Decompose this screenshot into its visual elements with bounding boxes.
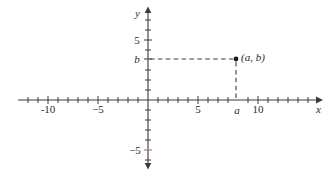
x-tick-label-10: 10 xyxy=(253,104,264,115)
x-tick-label-neg10: -10 xyxy=(41,104,56,115)
x-tick-label-5: 5 xyxy=(195,104,201,115)
plotted-point-ab xyxy=(234,57,239,62)
coordinate-plane-figure: -10 −5 5 a 10 5 b −5 x y (a, b) xyxy=(0,0,336,178)
x-tick-label-a: a xyxy=(234,105,240,116)
plot-canvas xyxy=(0,0,336,178)
y-axis-arrowhead-top xyxy=(145,7,152,14)
x-axis-label: x xyxy=(316,104,321,115)
y-axis-arrowhead-bottom xyxy=(145,163,152,170)
y-axis-label: y xyxy=(135,8,140,19)
point-label-ab: (a, b) xyxy=(241,52,265,63)
y-tick-label-b: b xyxy=(134,54,140,65)
x-tick-label-neg5: −5 xyxy=(92,104,104,115)
y-tick-label-5: 5 xyxy=(134,35,140,46)
y-tick-label-neg5: −5 xyxy=(129,145,141,156)
